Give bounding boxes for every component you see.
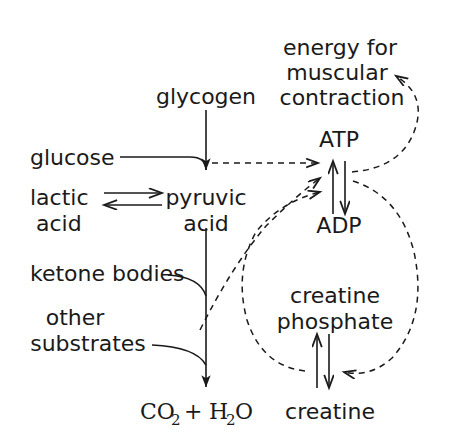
label-h2o-o: O (235, 399, 253, 424)
other-substrates-to-co2-line (152, 345, 206, 365)
label-other-line1: other (46, 305, 106, 330)
label-co2-subscript: 2 (171, 411, 181, 429)
metabolic-pathway-diagram: energy for muscular contraction glycogen… (0, 0, 455, 447)
label-co2-main: CO (140, 399, 175, 424)
label-glucose: glucose (30, 145, 115, 170)
label-energy-line2: muscular (286, 60, 388, 85)
label-lactic-line1: lactic (30, 185, 89, 210)
label-lactic-line2: acid (36, 211, 82, 236)
label-energy-line1: energy for (283, 35, 398, 60)
diagram-canvas: energy for muscular contraction glycogen… (0, 0, 455, 447)
label-creatine-phosphate-line2: phosphate (277, 309, 393, 334)
creatine-phosphate-to-atp-dashed-arrow (242, 192, 320, 371)
label-atp: ATP (319, 127, 359, 152)
label-adp: ADP (316, 213, 361, 238)
label-ketone-bodies: ketone bodies (30, 261, 185, 286)
label-other-line2: substrates (30, 331, 146, 356)
label-plus-sign: + (184, 399, 202, 424)
label-glycogen: glycogen (156, 84, 256, 109)
label-creatine-phosphate-line1: creatine (290, 283, 380, 308)
label-pyruvic-line1: pyruvic (165, 185, 246, 210)
adp-to-creatine-dashed-arrow (344, 181, 418, 373)
glucose-to-pyruvic-arrow (120, 157, 206, 170)
label-pyruvic-line2: acid (183, 211, 229, 236)
label-creatine: creatine (285, 399, 375, 424)
label-energy-line3: contraction (280, 85, 405, 110)
label-co2-h2o: CO 2 + H 2 O (140, 399, 253, 429)
